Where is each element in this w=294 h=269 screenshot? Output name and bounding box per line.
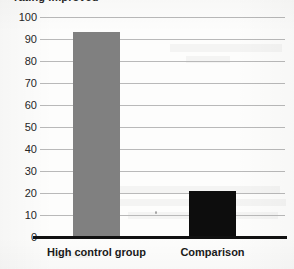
bar [73, 32, 120, 237]
y-tick-label: 100 [3, 11, 37, 23]
bar-chart-figure: rating improved 0102030405060708090100 H… [0, 0, 294, 269]
y-tick-label: 0 [3, 231, 37, 243]
y-tick-label: 30 [3, 165, 37, 177]
x-category-label: Comparison [180, 246, 244, 258]
y-tick-label: 50 [3, 121, 37, 133]
y-axis: 0102030405060708090100 [0, 17, 37, 237]
y-tick-label: 20 [3, 187, 37, 199]
y-tick-label: 80 [3, 55, 37, 67]
y-tick-label: 90 [3, 33, 37, 45]
y-tick-label: 10 [3, 209, 37, 221]
y-tick-label: 40 [3, 143, 37, 155]
scan-speck [155, 211, 157, 214]
plot-area [40, 17, 285, 237]
chart-title: rating improved [14, 0, 99, 3]
y-tick-label: 70 [3, 77, 37, 89]
y-tick-label: 60 [3, 99, 37, 111]
x-axis-baseline [33, 236, 287, 239]
bar [189, 191, 236, 237]
x-category-label: High control group [47, 246, 146, 258]
gridline [40, 17, 285, 18]
